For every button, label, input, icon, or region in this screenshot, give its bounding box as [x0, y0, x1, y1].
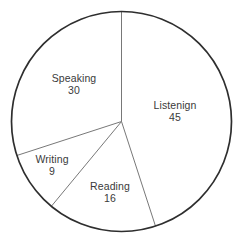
slice-label-value: 45: [154, 111, 197, 123]
slice-label-name: Reading: [90, 180, 130, 192]
slice-label-listenign: Listenign45: [154, 99, 197, 123]
slice-label-value: 30: [52, 84, 97, 96]
slice-label-name: Listenign: [154, 99, 197, 111]
slice-label-writing: Writing9: [35, 153, 68, 177]
pie-chart-figure: Listenign45Reading16Writing9Speaking30: [0, 0, 242, 244]
slice-label-value: 16: [90, 192, 130, 204]
slice-label-speaking: Speaking30: [52, 72, 97, 96]
slice-label-name: Speaking: [52, 72, 97, 84]
slice-label-name: Writing: [35, 153, 68, 165]
slice-label-value: 9: [35, 165, 68, 177]
pie-chart-graphic: [0, 0, 242, 244]
slice-label-reading: Reading16: [90, 180, 130, 204]
